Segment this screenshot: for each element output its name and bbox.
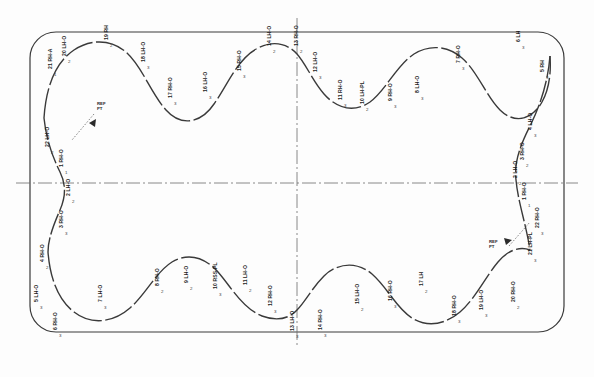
station-label-2: 2 LH-O [66,179,71,196]
station-label-20: 20 RH-O [511,281,516,302]
station-tick-4: 2 [46,266,48,270]
station-label-15: 15 LH-O [355,284,360,304]
station-label-19: 19 LH-O [479,290,484,310]
station-tick-37: 3 [243,75,245,79]
station-tick-26: 3 [534,134,536,138]
station-label-43: 21 RH-A [48,48,53,69]
left-callout-arrow-icon [89,119,96,127]
station-tick-39: 3 [174,102,176,106]
station-tick-21: 3 [534,259,536,263]
station-tick-27: 3 [546,76,548,80]
station-tick-17: 2 [425,290,427,294]
station-tick-23: 1 [528,204,530,208]
station-tick-20: 2 [517,306,519,310]
station-label-40: 18 LH-O [141,42,146,62]
station-tick-10: 3 [219,293,221,297]
station-label-18: 18 RH-O [452,295,457,316]
station-label-4: 4 RH-O [40,244,45,262]
station-label-37: 15 RH-O [237,50,242,71]
station-tick-25: 2 [526,164,528,168]
station-label-24: 2 LH-O [513,161,518,178]
station-tick-29: 3 [462,67,464,71]
station-label-23: 1 RH-O [522,182,527,200]
station-tick-15: 2 [361,308,363,312]
station-tick-2: 2 [72,200,74,204]
station-tick-3: 3 [65,232,67,236]
station-label-25: 3 RH-O [520,142,525,160]
station-label-32: 10 LH-PL [360,81,365,104]
station-tick-1: 1 [65,171,67,175]
station-label-16: 16 RH-O [388,280,393,301]
station-label-8: 8 RH-O [155,268,160,286]
station-tick-22: 3 [541,232,543,236]
drawing-sheet: 1 RH-O12 LH-O23 RH-O34 RH-O25 LH-O36 RH-… [0,0,594,377]
station-tick-11: 2 [249,289,251,293]
station-label-36: 14 LH-O [267,26,272,46]
left-callout: REF PT [97,102,106,112]
station-tick-36: 2 [273,50,275,54]
station-tick-32: 2 [366,108,368,112]
station-label-9: 9 LH-O [184,266,189,283]
station-label-34: 12 LH-O [313,52,318,72]
station-label-27: 5 RH [540,60,545,72]
station-tick-40: 3 [147,66,149,70]
station-tick-14: 3 [324,334,326,338]
station-label-35: 13 RH-O [294,25,299,46]
station-tick-42: 2 [68,60,70,64]
station-label-5: 5 LH-O [34,285,39,302]
station-label-7: 7 LH-O [98,285,103,302]
station-tick-9: 2 [190,287,192,291]
station-label-29: 7 RH-O [456,45,461,63]
station-tick-41: 2 [110,44,112,48]
station-label-1: 1 RH-O [59,149,64,167]
station-tick-6: 3 [59,334,61,338]
station-tick-12: 3 [274,310,276,314]
station-label-6: 6 RH-O [53,312,58,330]
station-label-3: 3 RH-O [59,210,64,228]
station-tick-19: 3 [485,314,487,318]
right-callout: REF PT [489,240,498,250]
station-tick-35: 2 [300,50,302,54]
station-tick-8: 2 [161,290,163,294]
left-callout-leader [72,114,94,140]
station-tick-33: 3 [344,104,346,108]
station-label-21: 21 LH-PL [528,232,533,255]
station-label-28: 6 LH [516,31,521,42]
station-tick-34: 3 [319,76,321,80]
station-label-33: 11 RH-O [338,79,343,100]
station-label-41: 19 RH [104,25,109,40]
station-label-31: 9 RH-O [388,83,393,101]
station-label-11: 11 LH-O [243,265,248,285]
right-callout-arrow-icon [504,238,512,245]
station-tick-18: 3 [458,320,460,324]
station-label-22: 22 RH-O [535,207,540,228]
station-label-26: 4 LH-O [528,113,533,130]
station-label-13: 13 LH-O [290,311,295,331]
station-label-39: 17 RH-O [168,77,173,98]
station-tick-30: 3 [421,97,423,101]
station-tick-43: 1 [54,73,56,77]
station-tick-7: 3 [104,306,106,310]
station-label-14: 14 RH-O [318,309,323,330]
station-tick-31: 3 [394,105,396,109]
station-label-12: 12 RH-O [268,285,273,306]
station-tick-13: 3 [296,335,298,339]
station-label-10: 10 RSS-PL [213,262,218,289]
station-tick-24: 2 [519,182,521,186]
station-tick-5: 3 [40,306,42,310]
station-label-30: 8 LH-O [415,76,420,93]
station-label-44: 22 LH-O [45,127,50,147]
station-label-38: 16 LH-O [203,72,208,92]
station-label-42: 20 LH-O [62,36,67,56]
station-tick-16: 3 [394,305,396,309]
station-label-17: 17 LH [419,272,424,286]
station-tick-44: 2 [51,151,53,155]
station-tick-38: 3 [209,96,211,100]
layout-diagram [0,0,594,377]
station-tick-28: 3 [522,46,524,50]
